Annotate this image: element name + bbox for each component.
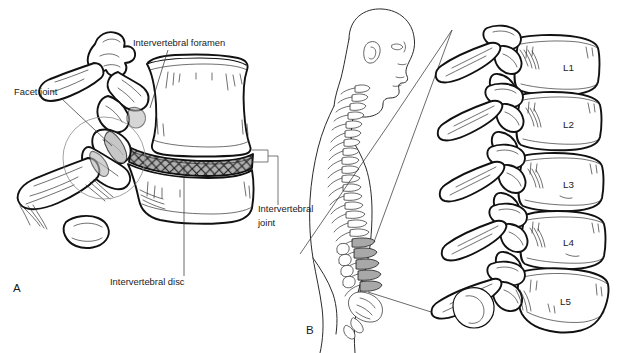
label-vertebra-l5: L5 [560, 296, 571, 307]
intervertebral-joint-bracket [252, 150, 278, 200]
panel-a-illustration [18, 32, 278, 276]
torso-back [310, 106, 334, 353]
vertebra-l4-shape [442, 204, 606, 279]
sacrum-coccyx [344, 292, 383, 339]
magnified-lumbar-spine [431, 26, 608, 333]
label-intervertebral-disc: Intervertebral disc [110, 276, 185, 287]
vertebra-l2-shape [438, 84, 602, 159]
label-facet-joint: Facet joint [14, 86, 58, 97]
vertebra-l5-shape [431, 262, 608, 333]
panel-b-illustration [300, 9, 452, 353]
label-intervertebral-joint-line1: Intervertebral [258, 203, 313, 214]
label-vertebra-l1: L1 [563, 62, 574, 73]
anatomy-figure: Intervertebral foramen Facet joint Inter… [0, 0, 617, 353]
label-intervertebral-foramen: Intervertebral foramen [133, 37, 225, 48]
label-intervertebral-joint-line2: joint [257, 217, 276, 228]
upper-vertebra-body [147, 55, 251, 157]
label-vertebra-l2: L2 [563, 119, 574, 130]
panel-label-b: B [306, 324, 314, 336]
label-vertebra-l4: L4 [563, 237, 574, 248]
panel-label-a: A [13, 282, 21, 294]
label-vertebra-l3: L3 [563, 179, 574, 190]
